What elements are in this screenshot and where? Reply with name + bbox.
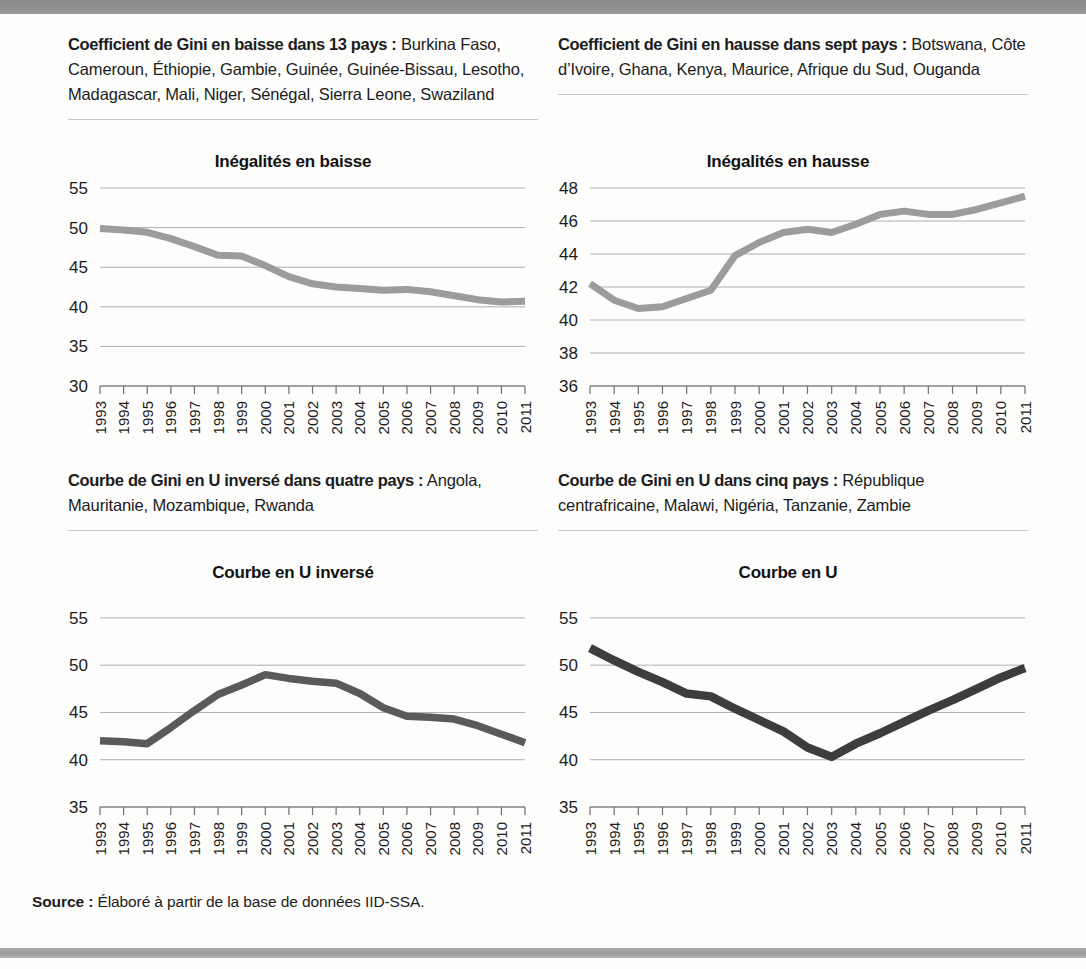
x-axis-tick-label: 2008 [944, 822, 961, 855]
x-axis-tick-label: 2011 [517, 401, 534, 433]
x-axis-tick-label: 1998 [702, 822, 719, 855]
y-axis-tick-label: 40 [559, 311, 578, 330]
chart-title-3: Courbe en U [538, 563, 1038, 585]
x-axis-tick-label: 2000 [257, 822, 274, 855]
x-axis-tick-label: 2006 [896, 822, 913, 855]
x-axis-tick-label: 1994 [606, 822, 623, 855]
x-axis-tick-label: 1998 [210, 822, 227, 855]
x-axis-tick-label: 2004 [351, 401, 368, 434]
x-axis-tick-label: 2003 [328, 401, 345, 434]
x-axis-tick-label: 2008 [446, 401, 463, 434]
x-axis-tick-label: 1996 [654, 401, 671, 434]
x-axis-tick-label: 2009 [469, 822, 486, 855]
chart-courbe-en-u: Courbe en U 3540455055199319941995199619… [538, 563, 1038, 885]
y-axis-tick-label: 50 [69, 656, 88, 675]
x-axis-tick-label: 2003 [823, 822, 840, 855]
y-axis-tick-label: 45 [69, 703, 88, 722]
x-axis-tick-label: 2000 [257, 401, 274, 434]
note-text-1: Coefficient de Gini en hausse dans sept … [558, 32, 1028, 82]
x-axis-tick-label: 2002 [304, 822, 321, 855]
x-axis-tick-label: 1996 [654, 822, 671, 855]
x-axis-tick-label: 2004 [847, 401, 864, 434]
x-axis-tick-label: 1996 [162, 401, 179, 434]
note-block-0: Coefficient de Gini en baisse dans 13 pa… [68, 32, 538, 120]
bottom-divider-bar [0, 948, 1086, 958]
data-series-line [590, 648, 1025, 757]
x-axis-tick-label: 2002 [799, 822, 816, 855]
note-lead-2: Courbe de Gini en U inversé dans quatre … [68, 471, 423, 489]
x-axis-tick-label: 1995 [630, 822, 647, 855]
plot-area-1: 3638404244464819931994199519961997199819… [538, 174, 1038, 464]
y-axis-tick-label: 40 [559, 751, 578, 770]
x-axis-tick-label: 2010 [493, 401, 510, 434]
chart-svg-2: 3540455055199319941995199619971998199920… [48, 585, 538, 885]
x-axis-tick-label: 1997 [678, 401, 695, 434]
y-axis-tick-label: 35 [69, 337, 88, 356]
x-axis-tick-label: 2006 [398, 401, 415, 434]
y-axis-tick-label: 50 [69, 219, 88, 238]
y-axis-tick-label: 50 [559, 656, 578, 675]
chart-title-0: Inégalités en baisse [48, 152, 538, 174]
note-lead-3: Courbe de Gini en U dans cinq pays : [558, 471, 838, 489]
x-axis-tick-label: 1993 [92, 401, 109, 434]
data-series-line [100, 675, 525, 744]
x-axis-tick-label: 1997 [678, 822, 695, 855]
x-axis-tick-label: 1993 [582, 822, 599, 855]
chart-svg-0: 3035404550551993199419951996199719981999… [48, 174, 538, 464]
x-axis-tick-label: 2001 [775, 401, 792, 434]
x-axis-tick-label: 2009 [968, 822, 985, 855]
x-axis-tick-label: 2005 [375, 822, 392, 855]
note-rule-1 [558, 94, 1028, 95]
chart-inegalites-en-baisse: Inégalités en baisse 3035404550551993199… [48, 152, 538, 464]
x-axis-tick-label: 2011 [1017, 822, 1034, 854]
x-axis-tick-label: 1995 [139, 822, 156, 855]
y-axis-tick-label: 35 [559, 798, 578, 817]
x-axis-tick-label: 2003 [328, 822, 345, 855]
x-axis-tick-label: 2001 [280, 401, 297, 434]
x-axis-tick-label: 1995 [139, 401, 156, 434]
x-axis-tick-label: 2005 [872, 401, 889, 434]
chart-title-1: Inégalités en hausse [538, 152, 1038, 174]
y-axis-tick-label: 46 [559, 212, 578, 231]
x-axis-tick-label: 1999 [233, 401, 250, 434]
x-axis-tick-label: 2001 [775, 822, 792, 855]
x-axis-tick-label: 1999 [727, 401, 744, 434]
data-series-line [100, 228, 525, 302]
note-text-2: Courbe de Gini en U inversé dans quatre … [68, 468, 538, 518]
x-axis-tick-label: 2009 [968, 401, 985, 434]
chart-svg-3: 3540455055199319941995199619971998199920… [538, 585, 1038, 885]
x-axis-tick-label: 2002 [304, 401, 321, 434]
x-axis-tick-label: 2005 [375, 401, 392, 434]
x-axis-tick-label: 1994 [606, 401, 623, 434]
x-axis-tick-label: 2001 [280, 822, 297, 855]
x-axis-tick-label: 2003 [823, 401, 840, 434]
x-axis-tick-label: 2007 [422, 401, 439, 434]
y-axis-tick-label: 55 [69, 609, 88, 628]
chart-title-2: Courbe en U inversé [48, 563, 538, 585]
plot-area-2: 3540455055199319941995199619971998199920… [48, 585, 538, 885]
note-text-3: Courbe de Gini en U dans cinq pays : Rép… [558, 468, 1028, 518]
chart-inegalites-en-hausse: Inégalités en hausse 3638404244464819931… [538, 152, 1038, 464]
x-axis-tick-label: 1997 [186, 401, 203, 434]
y-axis-tick-label: 45 [69, 258, 88, 277]
x-axis-tick-label: 2010 [992, 822, 1009, 855]
x-axis-tick-label: 2006 [896, 401, 913, 434]
x-axis-tick-label: 2008 [446, 822, 463, 855]
x-axis-tick-label: 2007 [920, 822, 937, 855]
x-axis-tick-label: 2009 [469, 401, 486, 434]
top-divider-bar [0, 0, 1086, 14]
x-axis-tick-label: 1999 [727, 822, 744, 855]
x-axis-tick-label: 1994 [115, 401, 132, 434]
source-note: Source : Élaboré à partir de la base de … [32, 893, 424, 911]
x-axis-tick-label: 2010 [992, 401, 1009, 434]
data-series-line [590, 196, 1025, 308]
x-axis-tick-label: 1993 [92, 822, 109, 855]
x-axis-tick-label: 2005 [872, 822, 889, 855]
y-axis-tick-label: 30 [69, 377, 88, 396]
x-axis-tick-label: 2004 [351, 822, 368, 855]
note-lead-0: Coefficient de Gini en baisse dans 13 pa… [68, 35, 396, 53]
x-axis-tick-label: 1998 [210, 401, 227, 434]
y-axis-tick-label: 35 [69, 798, 88, 817]
x-axis-tick-label: 2007 [422, 822, 439, 855]
note-rule-3 [558, 530, 1028, 531]
